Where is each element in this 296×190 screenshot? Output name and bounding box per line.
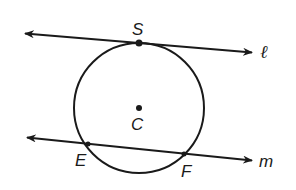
- label-line-l: ℓ: [260, 41, 268, 62]
- secant-line-m: [139, 149, 252, 161]
- label-line-m: m: [259, 152, 273, 171]
- tangent-line-l: [139, 43, 252, 53]
- point-e: [86, 142, 91, 147]
- point-s: [136, 40, 143, 47]
- label-c: C: [131, 115, 144, 134]
- tangent-line-l-left: [25, 34, 139, 44]
- label-s: S: [132, 20, 144, 39]
- label-f: F: [181, 162, 193, 181]
- geometry-diagram: S C E F ℓ m: [0, 0, 296, 190]
- point-f: [182, 152, 187, 157]
- label-e: E: [75, 151, 87, 170]
- point-c: [136, 105, 142, 111]
